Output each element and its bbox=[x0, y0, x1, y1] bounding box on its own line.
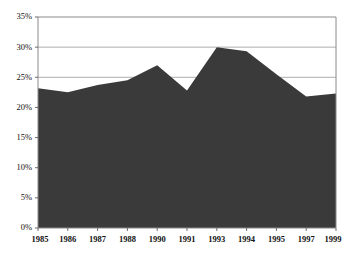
x-tick-label: 1990 bbox=[149, 234, 166, 244]
x-tick-label: 1999 bbox=[325, 234, 342, 244]
x-tick-label: 1995 bbox=[268, 234, 285, 244]
y-tick-label: 0% bbox=[21, 222, 32, 232]
y-tick-label: 15% bbox=[16, 132, 32, 142]
y-tick-label: 20% bbox=[16, 102, 32, 112]
y-tick-label: 5% bbox=[21, 192, 32, 202]
y-axis-tick-labels: 0%5%10%15%20%25%30%35% bbox=[16, 11, 32, 232]
y-tick-label: 35% bbox=[16, 11, 32, 21]
x-tick-label: 1988 bbox=[119, 234, 136, 244]
y-tick-label: 30% bbox=[16, 42, 32, 52]
y-tick-label: 10% bbox=[16, 162, 32, 172]
y-tick-label: 25% bbox=[16, 72, 32, 82]
chart-container: 0%5%10%15%20%25%30%35% 19851986198719881… bbox=[0, 0, 348, 258]
x-tick-label: 1986 bbox=[59, 234, 76, 244]
x-tick-label: 1987 bbox=[89, 234, 107, 244]
x-tick-label: 1991 bbox=[179, 234, 196, 244]
area-chart: 0%5%10%15%20%25%30%35% 19851986198719881… bbox=[0, 0, 348, 258]
x-tick-label: 1993 bbox=[208, 234, 225, 244]
x-tick-label: 1985 bbox=[32, 234, 49, 244]
x-tick-label: 1994 bbox=[238, 234, 256, 244]
x-axis-tick-labels: 1985198619871988199019911993199419951997… bbox=[32, 234, 342, 244]
x-tick-label: 1997 bbox=[298, 234, 316, 244]
